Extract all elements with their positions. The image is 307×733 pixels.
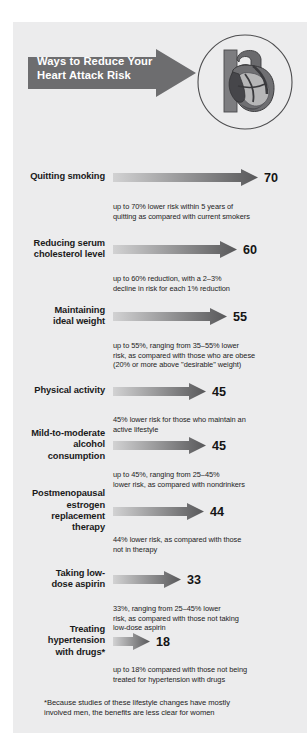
row-label-line: dose aspirin — [13, 579, 105, 590]
row-value: 70 — [264, 170, 278, 187]
row-label-line: Physical activity — [13, 385, 105, 396]
row-note-line: 44% lower risk, as compared with those — [113, 535, 293, 545]
row-note-line: up to 70% lower risk within 5 years of — [113, 202, 293, 212]
risk-reduction-rows: Quitting smoking70up to 70% lower risk w… — [13, 147, 307, 707]
row-note: up to 55%, ranging from 35–55% lowerrisk… — [113, 341, 293, 370]
row-label: Postmenopausalestrogenreplacementtherapy — [13, 488, 105, 534]
row-label-line: Postmenopausal — [13, 488, 105, 499]
row-note-line: 45% lower risk for those who maintain an — [113, 415, 293, 425]
value-bar — [113, 308, 227, 325]
row-note-line: quitting as compared with current smoker… — [113, 212, 293, 222]
row-note: up to 70% lower risk within 5 years ofqu… — [113, 202, 293, 221]
row-label: Maintainingideal weight — [13, 305, 105, 328]
row-note-line: active lifestyle — [113, 425, 293, 435]
row-value: 45 — [212, 438, 226, 455]
row-note-line: treated for hypertension with drugs — [113, 675, 293, 685]
row-label-line: Mild-to-moderate — [13, 428, 105, 439]
page-title: Ways to Reduce Your Heart Attack Risk — [37, 55, 159, 82]
row-value: 45 — [212, 384, 226, 401]
row-label-line: Maintaining — [13, 305, 105, 316]
value-bar — [113, 633, 150, 650]
row-note-line: not in therapy — [113, 545, 293, 555]
row-note: up to 18% compared with those not beingt… — [113, 665, 293, 684]
row-label-line: cholesterol level — [13, 249, 105, 260]
row-value: 60 — [243, 242, 257, 259]
row-note-line: up to 55%, ranging from 35–55% lower — [113, 341, 293, 351]
row-label-line: consumption — [13, 451, 105, 462]
row-note-line: up to 60% reduction, with a 2–3% — [113, 274, 293, 284]
heart-anatomy-icon — [193, 30, 297, 134]
row-label-line: ideal weight — [13, 316, 105, 327]
title-line-1: Ways to Reduce Your — [37, 55, 159, 69]
infographic-panel: Ways to Reduce Your Heart Attack Risk — [13, 22, 307, 733]
row-note-line: lower risk, as compared with nondrinkers — [113, 480, 293, 490]
row-label-line: Treating — [13, 624, 105, 635]
row-note: up to 60% reduction, with a 2–3%decline … — [113, 274, 293, 293]
row-note-line: up to 18% compared with those not being — [113, 665, 293, 675]
row-label-line: hypertension — [13, 635, 105, 646]
row-label-line: Reducing serum — [13, 238, 105, 249]
row-label: Physical activity — [13, 385, 105, 396]
value-bar — [113, 503, 204, 520]
row-label-line: therapy — [13, 522, 105, 533]
row-note-line: 33%, ranging from 25–45% lower — [113, 604, 293, 614]
value-bar — [113, 437, 206, 454]
footnote-line-1: *Because studies of these lifestyle chan… — [44, 698, 294, 708]
row-label-line: with drugs* — [13, 647, 105, 658]
row-value: 44 — [210, 504, 224, 521]
row-note: 44% lower risk, as compared with thoseno… — [113, 535, 293, 554]
title-line-2: Heart Attack Risk — [37, 69, 159, 83]
header: Ways to Reduce Your Heart Attack Risk — [13, 22, 307, 147]
row-label: Taking low-dose aspirin — [13, 568, 105, 591]
row-note-line: risk, as compared with those who are obe… — [113, 351, 293, 361]
row-value: 18 — [156, 634, 170, 651]
row-label-line: replacement — [13, 511, 105, 522]
row-label-line: estrogen — [13, 500, 105, 511]
row-note-line: risk, as compared with those not taking — [113, 614, 293, 624]
row-label: Reducing serumcholesterol level — [13, 238, 105, 261]
row-label-line: alcohol — [13, 439, 105, 450]
value-bar — [113, 571, 181, 588]
row-note: up to 45%, ranging from 25–45%lower risk… — [113, 470, 293, 489]
row-note-line: (20% or more above "desirable" weight) — [113, 360, 293, 370]
row-label-line: Quitting smoking — [13, 171, 105, 182]
row-note-line: decline in risk for each 1% reduction — [113, 284, 293, 294]
footnote: *Because studies of these lifestyle chan… — [44, 698, 294, 718]
infographic-page: Ways to Reduce Your Heart Attack Risk — [0, 0, 307, 733]
row-note-line: low-dose aspirin — [113, 623, 293, 633]
row-note-line: up to 45%, ranging from 25–45% — [113, 470, 293, 480]
row-value: 55 — [233, 309, 247, 326]
value-bar — [113, 383, 206, 400]
row-value: 33 — [187, 572, 201, 589]
row-label: Quitting smoking — [13, 171, 105, 182]
row-note: 45% lower risk for those who maintain an… — [113, 415, 293, 434]
row-note: 33%, ranging from 25–45% lowerrisk, as c… — [113, 604, 293, 633]
value-bar — [113, 169, 258, 186]
value-bar — [113, 241, 237, 258]
row-label-line: Taking low- — [13, 568, 105, 579]
row-label: Mild-to-moderatealcoholconsumption — [13, 428, 105, 462]
footnote-line-2: involved men, the benefits are less clea… — [44, 708, 294, 718]
row-label: Treatinghypertensionwith drugs* — [13, 624, 105, 658]
